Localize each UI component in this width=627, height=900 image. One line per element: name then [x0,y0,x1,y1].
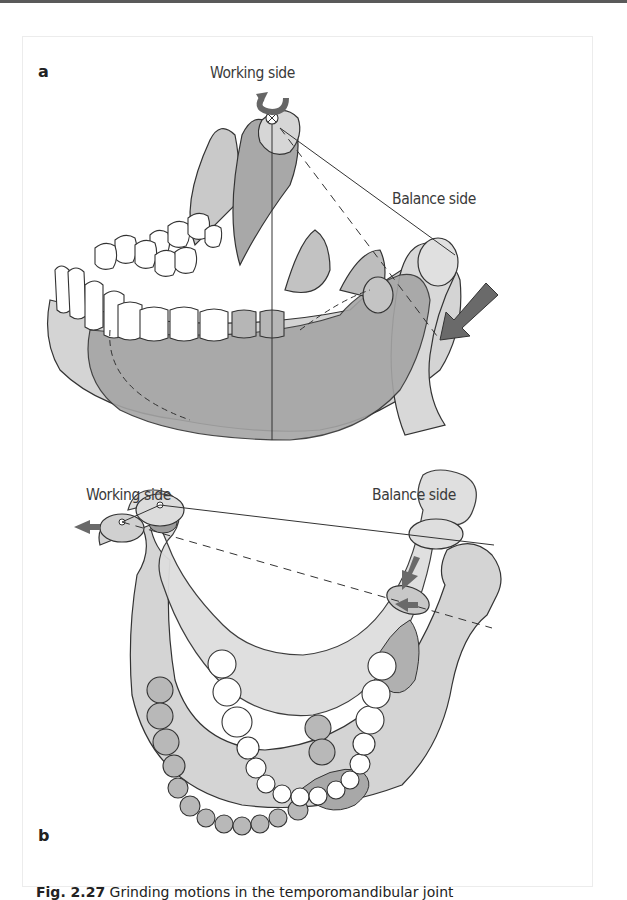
panel-label-a: a [38,62,49,81]
label-balance-side-a: Balance side [392,190,476,208]
label-balance-side-b: Balance side [372,486,456,504]
panel-label-b: b [38,826,49,845]
caption-text: Grinding motions in the temporomandibula… [110,884,454,900]
panel-b-drawing [74,470,501,835]
label-working-side-a: Working side [210,64,295,82]
caption-number: Fig. 2.27 [36,884,105,900]
panel-a-drawing [48,92,498,440]
figure-caption: Fig. 2.27 Grinding motions in the tempor… [36,884,454,900]
label-working-side-b: Working side [86,486,171,504]
